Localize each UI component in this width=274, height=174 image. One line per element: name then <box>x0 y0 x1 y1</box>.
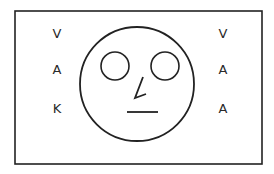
left-letter-2: A <box>53 62 62 77</box>
left-eye <box>101 52 129 80</box>
nose <box>135 77 146 98</box>
left-letter-3: K <box>53 101 62 116</box>
right-eye <box>151 52 179 80</box>
figure-canvas: V A K V A A <box>0 0 274 174</box>
face <box>80 27 194 141</box>
left-letter-column: V A K <box>53 26 62 116</box>
face-outline <box>80 27 194 141</box>
right-letter-1: V <box>219 26 228 41</box>
right-letter-column: V A A <box>219 26 228 116</box>
left-letter-1: V <box>53 26 62 41</box>
right-letter-2: A <box>219 62 228 77</box>
right-letter-3: A <box>219 101 228 116</box>
